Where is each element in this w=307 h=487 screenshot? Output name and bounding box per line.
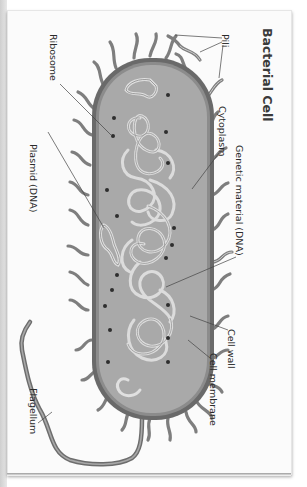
label-plasmid: Plasmid (DNA) xyxy=(28,144,39,212)
label-pili: Pili xyxy=(220,34,231,47)
label-flagellum: Flagellum xyxy=(28,388,39,434)
label-cytoplasm: Cytoplasm xyxy=(217,106,228,157)
label-cell-wall: Cell wall xyxy=(226,329,237,369)
label-ribosome: Ribosome xyxy=(48,34,59,81)
label-cell-membrane: Cell membrane xyxy=(208,353,219,426)
bacterial-cell-diagram: Bacterial Cell Pili Cytoplasm Genetic ma… xyxy=(0,0,307,487)
label-genetic-material: Genetic material (DNA) xyxy=(234,145,245,256)
diagram-title: Bacterial Cell xyxy=(260,28,275,122)
